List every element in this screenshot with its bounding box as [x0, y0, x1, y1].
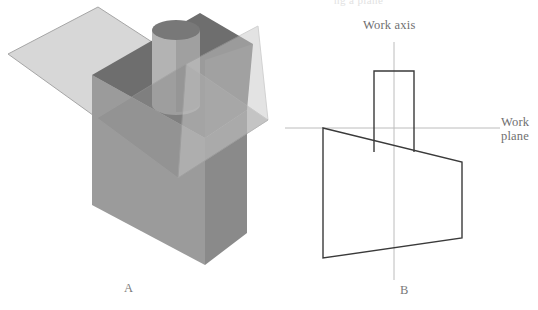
body-projection-outline	[323, 128, 462, 258]
panel-b-illustration	[0, 0, 538, 310]
work-plane-label-line-2: plane	[501, 129, 529, 143]
work-plane-label: Workplane	[501, 116, 529, 143]
work-axis-label: Work axis	[363, 19, 416, 33]
work-plane-label-line-1: Work	[501, 115, 529, 129]
panel-a-label: A	[124, 282, 133, 296]
figure-root: ng a plane Work axis Workplane A	[0, 0, 538, 310]
panel-b-label: B	[400, 284, 408, 298]
